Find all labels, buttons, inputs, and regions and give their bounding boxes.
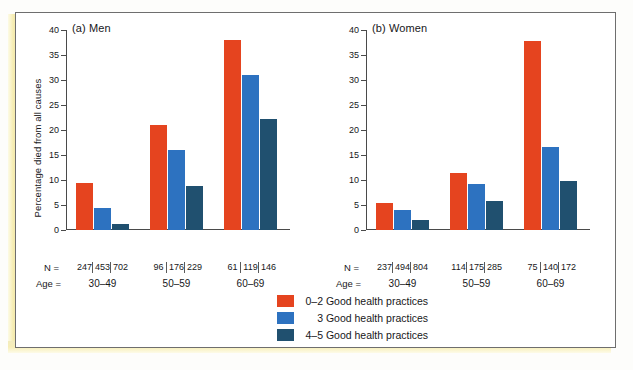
- bar: [76, 183, 93, 231]
- y-tick-label: 0: [354, 226, 359, 235]
- bar: [224, 40, 241, 230]
- age-equals-label-men: Age =: [36, 278, 61, 289]
- age-group-label: 60–69: [518, 277, 583, 290]
- legend-swatch-blue: [277, 312, 294, 324]
- y-tick-label: 0: [54, 226, 59, 235]
- y-axis-line-men: [66, 30, 67, 230]
- y-tick-mark: [61, 130, 66, 131]
- legend-count: 3: [301, 311, 323, 325]
- bar: [450, 173, 467, 231]
- bar-group-60-69: [224, 30, 277, 230]
- n-value: 146: [257, 261, 280, 274]
- age-group-label: 60–69: [218, 277, 283, 290]
- plot-area-women: 4035302520151050: [366, 30, 590, 230]
- y-tick-mark: [61, 80, 66, 81]
- n-value-separator: [558, 262, 559, 273]
- n-value-separator: [410, 262, 411, 273]
- y-tick-mark: [61, 205, 66, 206]
- n-value-separator: [166, 262, 167, 273]
- bar-group-50-59: [150, 30, 203, 230]
- bar: [468, 184, 485, 230]
- y-tick-label: 40: [49, 26, 59, 35]
- legend-text: 3 Good health practices: [301, 311, 428, 325]
- age-group-label: 30–49: [370, 277, 435, 290]
- bar: [486, 201, 503, 230]
- bar: [542, 147, 559, 231]
- n-value-separator: [184, 262, 185, 273]
- y-tick-mark: [361, 130, 366, 131]
- n-value: 172: [557, 261, 580, 274]
- y-tick-label: 20: [49, 126, 59, 135]
- n-value: 804: [409, 261, 432, 274]
- y-tick-label: 15: [49, 151, 59, 160]
- age-group-label: 50–59: [444, 277, 509, 290]
- legend-text: 0–2 Good health practices: [301, 294, 428, 308]
- n-value-separator: [540, 262, 541, 273]
- y-tick-label: 40: [349, 26, 359, 35]
- age-group-label: 50–59: [144, 277, 209, 290]
- legend-swatch-navy: [277, 329, 294, 341]
- bar: [524, 41, 541, 230]
- legend: 0–2 Good health practices3 Good health p…: [277, 294, 527, 345]
- legend-item: 0–2 Good health practices: [277, 294, 527, 309]
- bar-group-50-59: [450, 30, 503, 230]
- y-tick-label: 10: [349, 176, 359, 185]
- figure-root: (a) Men Percentage died from all causes …: [0, 0, 633, 370]
- bar: [242, 75, 259, 230]
- y-tick-label: 5: [54, 201, 59, 210]
- legend-label: Good health practices: [323, 329, 428, 341]
- n-equals-label-women: N =: [344, 262, 359, 273]
- n-value-separator: [92, 262, 93, 273]
- legend-item: 4–5 Good health practices: [277, 328, 527, 343]
- legend-label: Good health practices: [323, 312, 428, 324]
- y-tick-mark: [361, 80, 366, 81]
- y-axis-label: Percentage died from all causes: [32, 68, 43, 228]
- y-axis-line-women: [366, 30, 367, 230]
- n-value: 702: [109, 261, 132, 274]
- y-tick-mark: [61, 55, 66, 56]
- y-tick-mark: [61, 230, 66, 231]
- bar: [94, 208, 111, 230]
- y-tick-label: 5: [354, 201, 359, 210]
- bar: [412, 220, 429, 230]
- bar: [394, 210, 411, 230]
- legend-count: 0–2: [301, 294, 323, 308]
- bar: [376, 203, 393, 231]
- bar-group-30-49: [76, 30, 129, 230]
- age-equals-label-women: Age =: [336, 278, 361, 289]
- y-tick-label: 30: [49, 76, 59, 85]
- legend-item: 3 Good health practices: [277, 311, 527, 326]
- bar: [260, 119, 277, 230]
- n-value-separator: [110, 262, 111, 273]
- y-tick-mark: [61, 105, 66, 106]
- y-tick-label: 35: [49, 51, 59, 60]
- y-tick-mark: [61, 155, 66, 156]
- y-tick-mark: [61, 180, 66, 181]
- n-value: 285: [483, 261, 506, 274]
- n-value-separator: [484, 262, 485, 273]
- y-tick-label: 25: [49, 101, 59, 110]
- y-tick-label: 35: [349, 51, 359, 60]
- n-value-separator: [466, 262, 467, 273]
- n-value-separator: [258, 262, 259, 273]
- bar: [186, 186, 203, 230]
- y-tick-mark: [361, 30, 366, 31]
- y-tick-mark: [361, 180, 366, 181]
- y-tick-mark: [361, 105, 366, 106]
- bar: [168, 150, 185, 230]
- y-tick-mark: [361, 205, 366, 206]
- bar-group-30-49: [376, 30, 429, 230]
- legend-text: 4–5 Good health practices: [301, 328, 428, 342]
- n-value-separator: [392, 262, 393, 273]
- y-tick-mark: [361, 230, 366, 231]
- y-tick-label: 15: [349, 151, 359, 160]
- age-group-label: 30–49: [70, 277, 135, 290]
- panel-women: (b) Women 4035302520151050: [328, 22, 598, 254]
- y-tick-label: 10: [49, 176, 59, 185]
- bar: [560, 181, 577, 230]
- y-tick-mark: [361, 155, 366, 156]
- y-tick-label: 20: [349, 126, 359, 135]
- y-tick-mark: [61, 30, 66, 31]
- y-tick-label: 25: [349, 101, 359, 110]
- n-value-separator: [240, 262, 241, 273]
